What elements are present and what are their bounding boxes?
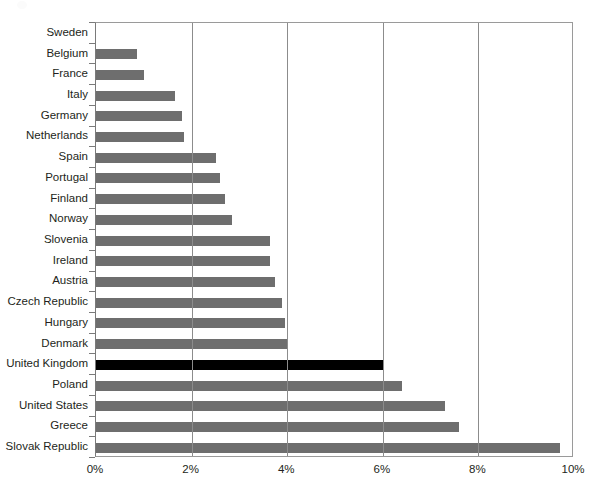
category-label-germany: Germany bbox=[0, 109, 88, 122]
category-label-united-states: United States bbox=[0, 399, 88, 412]
bar-row bbox=[96, 215, 572, 225]
bar-row bbox=[96, 28, 572, 38]
category-label-hungary: Hungary bbox=[0, 316, 88, 329]
category-tick bbox=[89, 374, 95, 375]
gridline-4 bbox=[287, 23, 288, 456]
page-artifact bbox=[17, 1, 27, 9]
bar-united-states bbox=[96, 401, 445, 411]
bar-hungary bbox=[96, 318, 285, 328]
x-tick-label-2pct: 2% bbox=[182, 462, 199, 476]
bar-row bbox=[96, 236, 572, 246]
category-tick bbox=[89, 312, 95, 313]
bar-poland bbox=[96, 381, 402, 391]
bar-row bbox=[96, 422, 572, 432]
bar-portugal bbox=[96, 173, 220, 183]
x-tick-label-10pct: 10% bbox=[561, 462, 584, 476]
category-label-greece: Greece bbox=[0, 419, 88, 432]
gridline-2 bbox=[192, 23, 193, 456]
bar-row bbox=[96, 298, 572, 308]
category-label-denmark: Denmark bbox=[0, 337, 88, 350]
category-label-sweden: Sweden bbox=[0, 26, 88, 39]
category-tick bbox=[89, 353, 95, 354]
category-tick bbox=[89, 436, 95, 437]
bar-finland bbox=[96, 194, 225, 204]
plot-area bbox=[95, 22, 573, 457]
bar-row bbox=[96, 277, 572, 287]
gridline-6 bbox=[383, 23, 384, 456]
category-label-italy: Italy bbox=[0, 88, 88, 101]
bar-united-kingdom bbox=[96, 360, 383, 370]
bar-germany bbox=[96, 111, 182, 121]
bar-row bbox=[96, 153, 572, 163]
category-tick bbox=[89, 105, 95, 106]
value-axis: 0%2%4%6%8%10% bbox=[0, 462, 598, 482]
bar-row bbox=[96, 443, 572, 453]
bar-row bbox=[96, 360, 572, 370]
category-label-poland: Poland bbox=[0, 378, 88, 391]
category-tick bbox=[89, 333, 95, 334]
x-tick-label-4pct: 4% bbox=[278, 462, 295, 476]
category-tick bbox=[89, 208, 95, 209]
bar-row bbox=[96, 49, 572, 59]
category-label-norway: Norway bbox=[0, 212, 88, 225]
bar-row bbox=[96, 381, 572, 391]
bar-row bbox=[96, 256, 572, 266]
bar-netherlands bbox=[96, 132, 184, 142]
x-tick-label-8pct: 8% bbox=[469, 462, 486, 476]
category-label-france: France bbox=[0, 67, 88, 80]
category-label-slovak-republic: Slovak Republic bbox=[0, 440, 88, 453]
bar-france bbox=[96, 70, 144, 80]
category-tick bbox=[89, 43, 95, 44]
category-label-finland: Finland bbox=[0, 192, 88, 205]
x-tick-label-6pct: 6% bbox=[373, 462, 390, 476]
bar-ireland bbox=[96, 256, 270, 266]
category-tick bbox=[89, 126, 95, 127]
category-label-netherlands: Netherlands bbox=[0, 129, 88, 142]
bar-row bbox=[96, 401, 572, 411]
category-tick bbox=[89, 250, 95, 251]
bar-belgium bbox=[96, 49, 137, 59]
category-tick bbox=[89, 229, 95, 230]
category-axis: SwedenBelgiumFranceItalyGermanyNetherlan… bbox=[0, 22, 88, 457]
bar-row bbox=[96, 173, 572, 183]
bar-spain bbox=[96, 153, 216, 163]
bar-row bbox=[96, 132, 572, 142]
category-tick bbox=[89, 146, 95, 147]
bar-norway bbox=[96, 215, 232, 225]
category-label-spain: Spain bbox=[0, 150, 88, 163]
category-tick bbox=[89, 63, 95, 64]
category-tick bbox=[89, 416, 95, 417]
bar-chart: SwedenBelgiumFranceItalyGermanyNetherlan… bbox=[0, 0, 598, 503]
category-tick bbox=[89, 188, 95, 189]
bar-row bbox=[96, 339, 572, 349]
category-tick bbox=[89, 22, 95, 23]
bar-row bbox=[96, 318, 572, 328]
bar-greece bbox=[96, 422, 459, 432]
category-label-ireland: Ireland bbox=[0, 254, 88, 267]
category-label-austria: Austria bbox=[0, 274, 88, 287]
bar-row bbox=[96, 111, 572, 121]
bar-slovenia bbox=[96, 236, 270, 246]
bar-series bbox=[96, 23, 572, 456]
category-tick bbox=[89, 395, 95, 396]
category-label-portugal: Portugal bbox=[0, 171, 88, 184]
category-tick bbox=[89, 167, 95, 168]
x-tick-label-0pct: 0% bbox=[87, 462, 104, 476]
category-tick bbox=[89, 271, 95, 272]
category-label-united-kingdom: United Kingdom bbox=[0, 357, 88, 370]
category-tick bbox=[89, 291, 95, 292]
category-tick bbox=[89, 84, 95, 85]
bar-row bbox=[96, 91, 572, 101]
category-label-czech-republic: Czech Republic bbox=[0, 295, 88, 308]
bar-italy bbox=[96, 91, 175, 101]
bar-czech-republic bbox=[96, 298, 282, 308]
bar-austria bbox=[96, 277, 275, 287]
category-tick bbox=[89, 457, 95, 458]
bar-slovak-republic bbox=[96, 443, 560, 453]
bar-row bbox=[96, 194, 572, 204]
bar-row bbox=[96, 70, 572, 80]
category-label-slovenia: Slovenia bbox=[0, 233, 88, 246]
gridline-8 bbox=[478, 23, 479, 456]
category-label-belgium: Belgium bbox=[0, 47, 88, 60]
